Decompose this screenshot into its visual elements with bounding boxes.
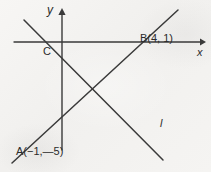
y-axis-arrowhead-icon [58,8,65,15]
line-label-l: l [160,118,162,129]
point-label-c: C [43,46,51,57]
x-axis-label: x [197,47,203,58]
geometry-figure: y x C B(4, 1) A(−1,—5) l [0,0,211,172]
y-axis-label: y [47,4,53,16]
x-axis-arrowhead-icon [200,38,206,45]
point-label-a: A(−1,—5) [16,146,63,157]
point-label-b: B(4, 1) [140,33,173,44]
y-axis [58,8,65,150]
